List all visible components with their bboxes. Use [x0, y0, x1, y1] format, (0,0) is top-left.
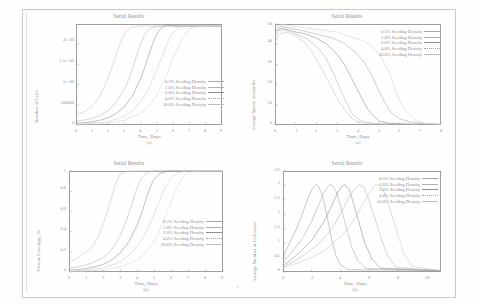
chart-panel-bottom-right: Serial Results Average Number of Collisi…: [244, 160, 450, 293]
legend-label-3: 4.0% Seeding Density: [165, 96, 206, 101]
legend-key-4: [206, 244, 222, 245]
legend-key-0: [206, 221, 222, 222]
legend-label-1: 1.0% Seeding Density: [163, 225, 204, 230]
legend-label-2: 2.0% Seeding Density: [163, 230, 204, 235]
legend-key-2: [206, 232, 222, 233]
legend-label-3: 4.0% Seeding Density: [379, 193, 420, 198]
legend-label-1: 1.0% Seeding Density: [165, 85, 206, 90]
legend-item-4: 10.0% Seeding Density: [348, 51, 440, 57]
legend-label-4: 10.0% Seeding Density: [377, 199, 420, 204]
legend-key-1: [422, 184, 438, 185]
legend-key-1: [206, 227, 222, 228]
legend-key-2: [422, 189, 438, 190]
legend-label-2: 2.0% Seeding Density: [381, 40, 422, 45]
scanned-figure-page: Serial Results Number of Cells 0 500000 …: [0, 0, 479, 304]
legend-key-0: [422, 178, 438, 179]
legend-label-0: 0.5% Seeding Density: [379, 176, 420, 181]
legend-top-left: 0.5% Seeding Density 1.0% Seeding Densit…: [132, 79, 224, 107]
legend-bottom-right: 0.5% Seeding Density 1.0% Seeding Densit…: [346, 176, 438, 204]
legend-key-1: [208, 87, 224, 88]
legend-item-4: 10.0% Seeding Density: [132, 101, 224, 107]
legend-label-1: 1.0% Seeding Density: [381, 35, 422, 40]
legend-key-4: [422, 201, 438, 202]
legend-top-right: 0.5% Seeding Density 1.0% Seeding Densit…: [348, 29, 440, 57]
legend-label-2: 2.0% Seeding Density: [379, 187, 420, 192]
legend-label-0: 0.5% Seeding Density: [165, 79, 206, 84]
legend-key-3: [422, 195, 438, 196]
legend-label-0: 0.5% Seeding Density: [381, 29, 422, 34]
legend-label-3: 4.0% Seeding Density: [163, 236, 204, 241]
legend-label-1: 1.0% Seeding Density: [379, 182, 420, 187]
legend-key-3: [208, 98, 224, 99]
legend-key-0: [208, 81, 224, 82]
legend-key-0: [424, 31, 440, 32]
legend-label-4: 10.0% Seeding Density: [163, 102, 206, 107]
chart-panel-bottom-left: Serial Results Volume Coverage, % 0 0.2 …: [26, 160, 232, 293]
legend-key-3: [424, 48, 440, 49]
legend-item-4: 10.0% Seeding Density: [346, 198, 438, 204]
legend-label-2: 2.0% Seeding Density: [165, 90, 206, 95]
legend-key-2: [208, 92, 224, 93]
legend-key-2: [424, 42, 440, 43]
legend-key-4: [424, 54, 440, 55]
legend-item-4: 10.0% Seeding Density: [130, 241, 222, 247]
legend-key-1: [424, 37, 440, 38]
legend-label-4: 10.0% Seeding Density: [379, 52, 422, 57]
page-stray-mark: r: [237, 284, 239, 289]
legend-key-3: [206, 238, 222, 239]
legend-key-4: [208, 104, 224, 105]
legend-label-0: 0.5% Seeding Density: [163, 219, 204, 224]
chart-panel-top-right: Serial Results Average Speed, micron/hr …: [244, 13, 450, 146]
legend-label-3: 4.0% Seeding Density: [381, 46, 422, 51]
chart-panel-top-left: Serial Results Number of Cells 0 500000 …: [26, 13, 232, 146]
legend-label-4: 10.0% Seeding Density: [161, 242, 204, 247]
legend-bottom-left: 0.5% Seeding Density 1.0% Seeding Densit…: [130, 219, 222, 247]
